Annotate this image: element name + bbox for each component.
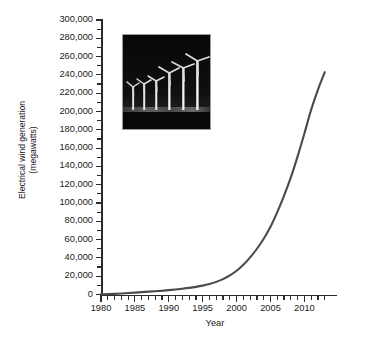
wind-generation-chart-figure: Electrical wind generation (megawatts) 0… (0, 0, 370, 347)
wind-turbine-photo-inset (122, 34, 211, 130)
wind-turbine-photo-svg (123, 35, 210, 129)
x-axis-title: Year (101, 318, 329, 328)
